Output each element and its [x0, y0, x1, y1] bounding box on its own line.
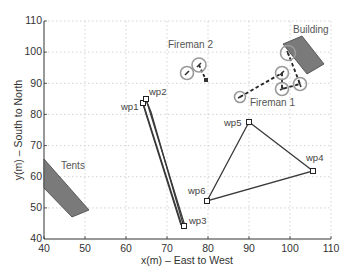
x-tick-labels: 40 50 60 70 80 90 100 110: [38, 242, 339, 254]
x-tick: 100: [281, 242, 299, 254]
y-tick: 60: [30, 170, 42, 182]
fireman-2-marker-icon: [204, 78, 208, 82]
y-tick: 90: [30, 77, 42, 89]
waypoint-label-wp2: wp2: [148, 86, 166, 97]
waypoint-label-wp5: wp5: [223, 117, 241, 128]
waypoint-label-wp6: wp6: [187, 185, 205, 196]
waypoint-marker-wp6: [205, 199, 210, 204]
waypoint-marker-wp2: [144, 97, 149, 102]
y-tick: 50: [30, 201, 42, 213]
x-tick: 80: [202, 242, 214, 254]
fireman-2-label: Fireman 2: [168, 39, 213, 50]
waypoint-marker-wp5: [247, 120, 252, 125]
x-axis-label: x(m) – East to West: [141, 254, 233, 266]
waypoint-marker-wp3: [182, 224, 187, 229]
tents-label: Tents: [61, 160, 85, 171]
waypoint-label-wp3: wp3: [188, 215, 206, 226]
x-tick: 110: [323, 242, 340, 254]
waypoint-label-wp1: wp1: [120, 101, 138, 112]
y-tick: 70: [30, 139, 42, 151]
waypoint-marker-wp4: [311, 169, 316, 174]
x-tick: 60: [120, 242, 132, 254]
y-tick-labels: 40 50 60 70 80 90 100 110: [24, 14, 42, 244]
y-axis-label: y(m) – South to North: [12, 80, 24, 181]
x-tick: 70: [161, 242, 173, 254]
building-label: Building: [293, 24, 329, 35]
fireman-1-label: Fireman 1: [250, 97, 295, 108]
map-chart: 40 50 60 70 80 90 100 110 40 50 60 70 80…: [0, 0, 355, 275]
waypoint-label-wp4: wp4: [305, 152, 323, 163]
y-tick: 40: [30, 232, 42, 244]
y-tick: 80: [30, 108, 42, 120]
x-tick: 50: [79, 242, 91, 254]
x-tick: 90: [243, 242, 255, 254]
y-tick: 100: [24, 45, 42, 57]
y-tick: 110: [25, 14, 42, 26]
